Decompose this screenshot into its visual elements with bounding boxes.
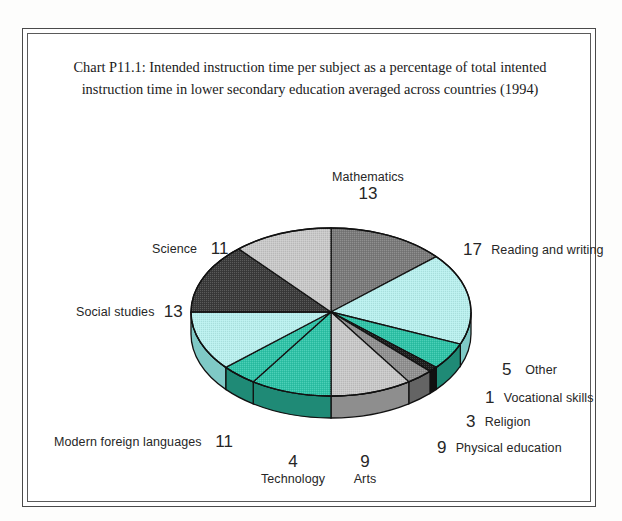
pie-label-religion-name: Religion: [485, 415, 531, 429]
pie-label-physical-education-value: 9: [437, 438, 447, 457]
pie-label-arts: 9 Arts: [339, 452, 391, 486]
pie-label-science-value: 11: [211, 239, 229, 258]
pie-label-technology-value: 4: [256, 452, 330, 472]
pie-label-religion: 3 Religion: [466, 412, 531, 432]
pie-slice-tops: [191, 228, 471, 396]
pie-label-reading-and-writing-value: 17: [463, 240, 482, 259]
pie-label-modern-foreign-languages-name: Modern foreign languages: [54, 435, 202, 449]
pie-label-physical-education: 9 Physical education: [437, 438, 562, 458]
pie-label-vocational-skills-value: 1: [485, 388, 495, 407]
chart-frame-outer: Chart P11.1: Intended instruction time p…: [22, 28, 596, 507]
pie-label-social-studies-name: Social studies: [76, 305, 155, 319]
pie-label-mathematics-value: 13: [313, 184, 423, 204]
pie-label-social-studies: Social studies 13: [76, 302, 183, 322]
pie-label-mathematics-name: Mathematics: [313, 170, 423, 184]
pie-chart-plot-area: Mathematics 13 Science 11 Social studies…: [28, 34, 592, 503]
pie-label-physical-education-name: Physical education: [456, 441, 562, 455]
pie-label-science-name: Science: [152, 242, 197, 256]
pie-label-arts-value: 9: [339, 452, 391, 472]
pie-label-modern-foreign-languages-value: 11: [215, 432, 233, 451]
pie-label-social-studies-value: 13: [164, 302, 183, 321]
chart-frame-inner: Chart P11.1: Intended instruction time p…: [27, 33, 591, 502]
pie-label-other: 5 Other: [502, 360, 557, 380]
pie-label-mathematics: Mathematics 13: [313, 170, 423, 204]
pie-label-reading-and-writing: 17 Reading and writing: [463, 240, 604, 260]
pie-label-vocational-skills-name: Vocational skills: [504, 391, 594, 405]
page-top-cut-text: [0, 0, 622, 6]
pie-label-other-name: Other: [525, 363, 557, 377]
pie-label-science: Science 11: [152, 239, 229, 259]
pie-label-technology-name: Technology: [256, 472, 330, 486]
pie-label-modern-foreign-languages: Modern foreign languages 11: [54, 432, 233, 452]
pie-label-arts-name: Arts: [339, 472, 391, 486]
pie-label-reading-and-writing-name: Reading and writing: [491, 243, 603, 257]
pie-label-vocational-skills: 1 Vocational skills: [485, 388, 594, 408]
pie-label-technology: 4 Technology: [256, 452, 330, 486]
pie-label-other-value: 5: [502, 360, 512, 379]
pie-label-religion-value: 3: [466, 412, 476, 431]
scanned-page: Chart P11.1: Intended instruction time p…: [0, 0, 622, 521]
